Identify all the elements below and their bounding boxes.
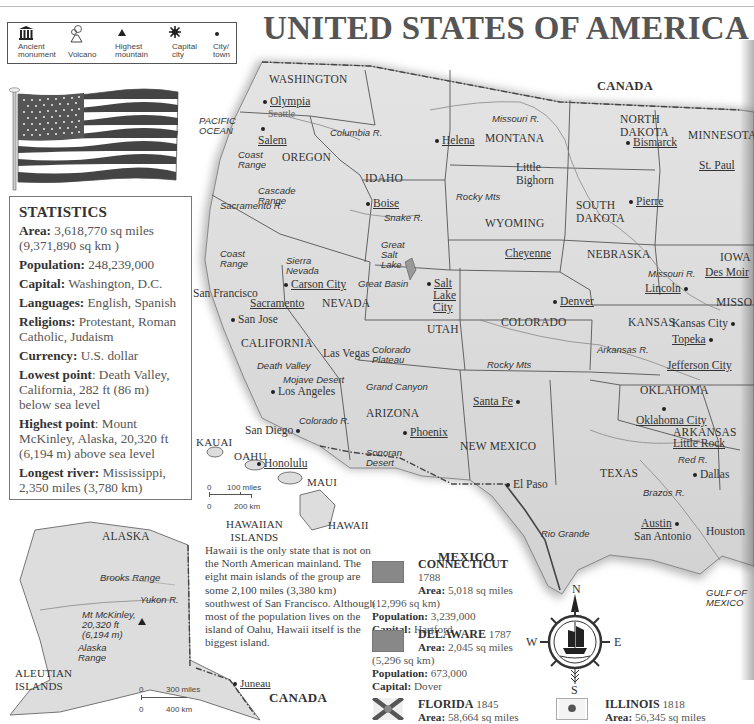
capital-pierre: Pierre bbox=[626, 195, 663, 207]
island-kauai: KAUAI bbox=[196, 436, 232, 448]
state-entry-illinois: ILLINOIS 1818 Area: 56,345 sq miles bbox=[556, 698, 736, 724]
label-canada-alaska: CANADA bbox=[269, 690, 327, 706]
label-aleutian-islands: ALEUTIANISLANDS bbox=[15, 667, 72, 693]
river-columbia: Columbia R. bbox=[330, 128, 382, 138]
scale-bar-hawaii: 0 100 miles 0 200 km bbox=[207, 483, 267, 513]
label-gulf-of-mexico: GULF OFMEXICO bbox=[706, 588, 747, 608]
mountains-rocky-mts: Rocky Mts bbox=[456, 192, 500, 202]
compass-south: S bbox=[571, 683, 578, 698]
island-maui: MAUI bbox=[307, 476, 337, 488]
river-red: Red R. bbox=[678, 455, 708, 465]
river-yukon: Yukon R. bbox=[140, 595, 179, 605]
landmark-grand-canyon: Grand Canyon bbox=[366, 382, 428, 392]
state-texas: TEXAS bbox=[600, 467, 638, 479]
compass-ship-icon bbox=[530, 592, 620, 696]
state-entry-delaware: DELAWARE 1787 Area: 2,045 sq miles (5,29… bbox=[372, 628, 532, 693]
capital-denver: Denver bbox=[550, 295, 594, 307]
state-alaska: ALASKA bbox=[102, 530, 150, 542]
lake-great-salt-lake: GreatSaltLake bbox=[381, 240, 405, 270]
capital-oklahoma-city: Oklahoma City bbox=[636, 402, 707, 426]
river-rio-grande: Rio Grande bbox=[541, 529, 590, 539]
state-utah: UTAH bbox=[427, 323, 459, 335]
river-missouri: Missouri R. bbox=[492, 114, 540, 124]
region-great-basin: Great Basin bbox=[358, 279, 408, 289]
city-las-vegas: Las Vegas bbox=[323, 347, 370, 359]
capital-jefferson-city: Jefferson City bbox=[667, 359, 732, 371]
state-iowa: IOWA bbox=[720, 251, 751, 263]
mountains-coast-range-2: CoastRange bbox=[220, 249, 248, 269]
mountains-alaska-range: AlaskaRange bbox=[78, 643, 107, 663]
mountains-rocky-mts-2: Rocky Mts bbox=[487, 360, 531, 370]
capital-austin: Austin bbox=[641, 517, 682, 529]
region-sonoran-desert: SonoranDesert bbox=[366, 448, 402, 468]
capital-phoenix: Phoenix bbox=[400, 426, 448, 438]
river-sacramento: Sacramento R. bbox=[220, 201, 283, 211]
capital-santa-fe: Santa Fe bbox=[473, 395, 523, 407]
capital-helena: Helena bbox=[432, 134, 475, 146]
state-south-dakota: SOUTHDAKOTA bbox=[576, 199, 625, 225]
city-dallas: Dallas bbox=[690, 468, 729, 480]
capital-salt-lake-city: SaltLakeCity bbox=[424, 277, 456, 313]
state-missouri: MISSO bbox=[716, 296, 752, 308]
capital-olympia: Olympia bbox=[260, 95, 310, 107]
mountains-brooks-range: Brooks Range bbox=[100, 573, 160, 583]
state-kansas: KANSAS bbox=[628, 316, 675, 328]
mountains-sierra-nevada: SierraNevada bbox=[286, 256, 319, 276]
island-oahu: OAHU bbox=[234, 450, 267, 462]
compass-east: E bbox=[614, 635, 621, 650]
florida-flag-icon bbox=[372, 698, 404, 720]
state-california: CALIFORNIA bbox=[241, 337, 313, 349]
river-missouri-2: Missouri R. bbox=[648, 269, 696, 279]
city-los-angeles: Los Angeles bbox=[268, 385, 335, 397]
capital-carson-city: Carson City bbox=[281, 278, 346, 290]
capital-salem: Salem bbox=[258, 122, 287, 146]
region-death-valley: Death Valley bbox=[257, 361, 311, 371]
city-san-antonio: San Antonio bbox=[634, 530, 691, 542]
compass-north: N bbox=[572, 582, 581, 597]
capital-lincoln: Lincoln bbox=[645, 282, 691, 294]
city-kansas-city: Kansas City bbox=[672, 317, 738, 329]
capital-cheyenne: Cheyenne bbox=[505, 247, 551, 259]
river-brazos: Brazos R. bbox=[643, 488, 685, 498]
state-entry-florida: FLORIDA 1845 Area: 58,664 sq miles bbox=[372, 698, 532, 724]
island-hawaii: HAWAII bbox=[328, 519, 369, 531]
city-san-jose: San Jose bbox=[228, 313, 278, 325]
state-oregon: OREGON bbox=[282, 151, 331, 163]
state-idaho: IDAHO bbox=[365, 172, 403, 184]
connecticut-flag-icon bbox=[372, 561, 404, 583]
state-nebraska: NEBRASKA bbox=[587, 248, 651, 260]
label-pacific-ocean: PACIFICOCEAN bbox=[199, 116, 236, 136]
city-san-francisco: San Francisco bbox=[193, 287, 258, 299]
capital-topeka: Topeka bbox=[672, 333, 716, 345]
capital-bismarck: Bismarck bbox=[623, 136, 677, 148]
capital-st-paul: St. Paul bbox=[699, 159, 735, 171]
landmark-little-bighorn: LittleBighorn bbox=[516, 161, 554, 187]
capital-sacramento: Sacramento bbox=[250, 297, 304, 309]
region-colorado-plateau: ColoradoPlateau bbox=[372, 345, 411, 365]
city-san-diego: San Diego bbox=[245, 424, 303, 436]
city-el-paso: El Paso bbox=[503, 478, 548, 490]
illinois-flag-icon bbox=[556, 698, 588, 720]
state-minnesota: MINNESOTA bbox=[688, 129, 754, 141]
river-snake: Snake R. bbox=[384, 213, 423, 223]
mountains-coast-range: CoastRange bbox=[238, 150, 266, 170]
compass-rose: N S W E bbox=[530, 592, 620, 696]
capital-little-rock: Little Rock bbox=[673, 437, 725, 449]
state-arizona: ARIZONA bbox=[366, 407, 419, 419]
label-canada: CANADA bbox=[597, 79, 653, 94]
capital-boise: Boise bbox=[363, 197, 399, 209]
state-oklahoma: OKLAHOMA bbox=[640, 384, 709, 396]
delaware-flag-icon bbox=[372, 630, 404, 652]
city-houston: Houston bbox=[706, 525, 745, 537]
river-colorado: Colorado R. bbox=[299, 416, 350, 426]
state-wyoming: WYOMING bbox=[485, 217, 545, 229]
hawaii-description: Hawaii is the only state that is not on … bbox=[205, 544, 377, 650]
mountain-mckinley: Mt McKinley,20,320 ft(6,194 m) bbox=[82, 610, 136, 640]
capital-des-moines: Des Moir bbox=[705, 266, 749, 278]
region-mojave-desert: Mojave Desert bbox=[283, 375, 344, 385]
state-nevada: NEVADA bbox=[322, 297, 370, 309]
river-arkansas: Arkansas R. bbox=[597, 345, 649, 355]
state-washington: WASHINGTON bbox=[269, 73, 347, 85]
state-montana: MONTANA bbox=[485, 132, 544, 144]
compass-west: W bbox=[526, 635, 537, 650]
